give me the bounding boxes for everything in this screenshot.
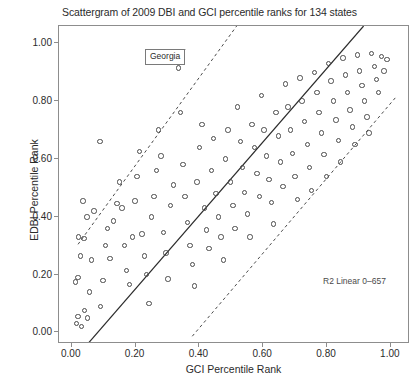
- x-tick-mark: [135, 343, 136, 347]
- data-point: [223, 156, 228, 161]
- data-point: [283, 81, 288, 86]
- data-point: [75, 275, 80, 280]
- data-point: [218, 234, 223, 239]
- data-point: [261, 127, 266, 132]
- data-point: [271, 221, 276, 226]
- data-point: [305, 142, 310, 147]
- data-point: [202, 205, 207, 210]
- data-point: [182, 194, 187, 199]
- data-point: [139, 231, 144, 236]
- data-points-layer: [59, 26, 408, 342]
- data-point: [185, 220, 190, 225]
- data-point: [127, 282, 132, 287]
- data-point: [142, 253, 147, 258]
- data-point: [209, 168, 214, 173]
- data-point: [316, 110, 321, 115]
- data-point: [321, 152, 326, 157]
- data-point: [144, 272, 149, 277]
- data-point: [178, 110, 183, 115]
- data-point: [192, 283, 197, 288]
- data-point: [345, 90, 350, 95]
- data-point: [146, 301, 151, 306]
- x-tick-label: 0.80: [301, 348, 351, 359]
- data-point: [245, 211, 250, 216]
- data-point: [98, 304, 103, 309]
- x-tick-mark: [262, 343, 263, 347]
- data-point: [225, 127, 230, 132]
- data-point: [372, 64, 377, 69]
- data-point: [137, 149, 142, 154]
- data-point: [362, 98, 367, 103]
- data-point: [78, 253, 83, 258]
- y-tick-mark: [54, 216, 58, 217]
- data-point: [75, 314, 80, 319]
- data-point: [264, 153, 269, 158]
- data-point: [221, 257, 226, 262]
- data-point: [80, 198, 85, 203]
- data-point: [197, 145, 202, 150]
- data-point: [187, 243, 192, 248]
- x-axis-title: GCI Percentile Rank: [58, 363, 409, 375]
- georgia-callout-label: Georgia: [145, 49, 185, 65]
- data-point: [82, 308, 87, 313]
- plot-area: [58, 25, 409, 343]
- data-point: [376, 90, 381, 95]
- data-point: [111, 218, 116, 223]
- data-point: [124, 268, 129, 273]
- data-point: [134, 174, 139, 179]
- data-point: [273, 110, 278, 115]
- data-point: [180, 162, 185, 167]
- data-point: [242, 190, 247, 195]
- data-point: [149, 214, 154, 219]
- data-point: [168, 203, 173, 208]
- data-point: [326, 61, 331, 66]
- data-point: [384, 57, 389, 62]
- data-point: [206, 246, 211, 251]
- y-tick-label: 0.40: [6, 210, 52, 221]
- data-point: [319, 130, 324, 135]
- x-tick-mark: [198, 343, 199, 347]
- data-point: [379, 54, 384, 59]
- data-point: [374, 77, 379, 82]
- data-point: [103, 243, 108, 248]
- data-point: [176, 65, 181, 70]
- data-point: [130, 234, 135, 239]
- y-tick-label: 0.00: [6, 326, 52, 337]
- data-point: [252, 145, 257, 150]
- data-point: [204, 227, 209, 232]
- data-point: [156, 127, 161, 132]
- x-tick-label: 1.00: [365, 348, 415, 359]
- y-tick-mark: [54, 274, 58, 275]
- data-point: [369, 51, 374, 56]
- data-point: [333, 117, 338, 122]
- y-tick-mark: [54, 100, 58, 101]
- data-point: [338, 159, 343, 164]
- data-point: [288, 127, 293, 132]
- data-point: [151, 194, 156, 199]
- data-point: [158, 153, 163, 158]
- data-point: [117, 179, 122, 184]
- data-point: [171, 182, 176, 187]
- data-point: [280, 184, 285, 189]
- data-point: [331, 98, 336, 103]
- data-point: [163, 250, 168, 255]
- data-point: [119, 205, 124, 210]
- y-tick-label: 0.60: [6, 152, 52, 163]
- data-point: [357, 68, 362, 73]
- x-tick-mark: [71, 343, 72, 347]
- data-point: [355, 52, 360, 57]
- data-point: [235, 104, 240, 109]
- data-point: [259, 93, 264, 98]
- data-point: [343, 72, 348, 77]
- data-point: [249, 122, 254, 127]
- x-tick-mark: [390, 343, 391, 347]
- x-tick-label: 0.20: [110, 348, 160, 359]
- y-tick-label: 1.00: [6, 37, 52, 48]
- data-point: [232, 226, 237, 231]
- data-point: [84, 214, 89, 219]
- data-point: [278, 159, 283, 164]
- data-point: [122, 243, 127, 248]
- data-point: [307, 165, 312, 170]
- data-point: [340, 55, 345, 60]
- data-point: [297, 75, 302, 80]
